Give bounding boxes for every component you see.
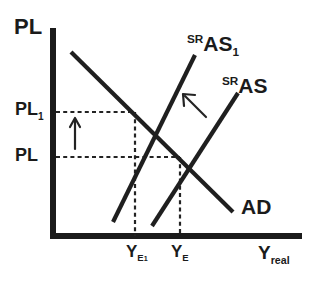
output-ye1-label: YE1 <box>126 243 148 264</box>
curve-label-ad: AD <box>241 196 271 217</box>
ye-base: Y <box>171 242 182 261</box>
curve-sras1 <box>113 55 195 222</box>
curve-label-sras1: SRAS1 <box>187 33 239 58</box>
as-shift-arrow <box>183 94 206 117</box>
price-level-base: PL <box>15 145 38 165</box>
price-level-1-base: PL <box>15 99 38 119</box>
ad-base: AD <box>241 195 271 218</box>
price-level-label: PL <box>15 146 38 164</box>
x-axis-label: Yreal <box>258 243 290 265</box>
economics-diagram: PL PL1 PL SRAS1 SRAS AD YE1 YE Yreal <box>0 0 318 284</box>
curve-label-sras: SRAS <box>222 75 268 96</box>
curve-ad <box>71 52 233 212</box>
x-axis-label-sub: real <box>271 254 290 266</box>
y-axis-label: PL <box>14 16 42 38</box>
sras1-prefix: SR <box>187 32 203 45</box>
ye-subscript: E <box>182 252 188 263</box>
price-level-1-label: PL1 <box>15 100 44 122</box>
x-axis-label-main: Y <box>258 242 271 263</box>
sras-base: AS <box>238 74 267 97</box>
ye1-subsubscript: 1 <box>144 255 148 263</box>
ye1-base: Y <box>126 242 137 261</box>
price-level-1-subscript: 1 <box>38 111 44 122</box>
output-ye-label: YE <box>171 243 189 263</box>
sras1-base: AS <box>203 32 232 55</box>
sras-prefix: SR <box>222 74 238 87</box>
price-level-rise-arrow <box>70 118 80 149</box>
sras1-subscript: 1 <box>233 45 240 58</box>
